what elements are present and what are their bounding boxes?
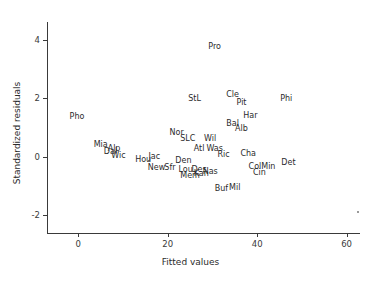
data-point-label: Buf bbox=[215, 185, 228, 193]
data-point-label: Har bbox=[243, 112, 257, 120]
y-tick bbox=[43, 157, 47, 158]
data-point-label: Cha bbox=[240, 150, 256, 158]
data-point-label: New bbox=[148, 164, 165, 172]
data-point-label: Pit bbox=[236, 99, 246, 107]
x-tick-label: 60 bbox=[341, 240, 352, 249]
y-tick bbox=[43, 98, 47, 99]
data-point-label: Alb bbox=[235, 125, 248, 133]
data-point-label: Cle bbox=[226, 91, 239, 99]
y-tick-label: -2 bbox=[20, 211, 40, 220]
x-tick-label: 20 bbox=[162, 240, 173, 249]
scatter-plot: 0204060420-2 PhoProStLClePitPhiHarBalAlb… bbox=[0, 0, 381, 285]
x-tick-label: 0 bbox=[76, 240, 81, 249]
data-point-label: Atl bbox=[194, 145, 205, 153]
y-tick-label: 4 bbox=[20, 35, 40, 44]
data-point-label: Mem bbox=[180, 172, 200, 180]
y-axis-line bbox=[47, 22, 48, 233]
x-axis-title: Fitted values bbox=[0, 257, 381, 267]
data-point-label: Den bbox=[175, 157, 191, 165]
data-point-label: Sfr bbox=[164, 164, 175, 172]
y-axis-title: Standardized residuals bbox=[12, 28, 22, 238]
data-point-label: Ric bbox=[218, 151, 230, 159]
data-point-label: Wic bbox=[111, 152, 125, 160]
data-point-label: Wil bbox=[204, 135, 216, 143]
data-point-label: StL bbox=[188, 95, 201, 103]
x-axis-line bbox=[47, 233, 360, 234]
x-tick bbox=[257, 233, 258, 237]
data-point-label: Cin bbox=[253, 169, 266, 177]
x-tick bbox=[347, 233, 348, 237]
y-tick-label: 2 bbox=[20, 94, 40, 103]
y-tick-label: 0 bbox=[20, 153, 40, 162]
y-tick bbox=[43, 215, 47, 216]
x-tick-label: 40 bbox=[252, 240, 263, 249]
y-tick bbox=[43, 40, 47, 41]
data-point-label: SLC bbox=[180, 135, 195, 143]
data-point-label: Pho bbox=[70, 113, 85, 121]
data-point-label: Pro bbox=[208, 43, 221, 51]
stray-mark bbox=[357, 211, 359, 213]
data-point-label: Det bbox=[281, 159, 295, 167]
data-point-label: Jac bbox=[148, 153, 160, 161]
x-tick bbox=[168, 233, 169, 237]
data-point-label: Mil bbox=[229, 184, 240, 192]
x-tick bbox=[78, 233, 79, 237]
data-point-label: Phi bbox=[280, 95, 292, 103]
